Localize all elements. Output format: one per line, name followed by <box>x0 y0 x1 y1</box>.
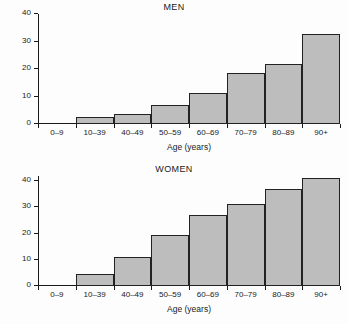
x-tick <box>340 286 341 290</box>
x-tick-label: 60–69 <box>189 290 227 299</box>
x-tick-label: 90+ <box>302 128 340 137</box>
bar <box>189 215 227 287</box>
x-tick-label: 80–89 <box>265 290 303 299</box>
bar-slot <box>38 14 76 124</box>
bar-slot <box>114 14 152 124</box>
x-tick-label: 70–79 <box>227 128 265 137</box>
y-tick-label: 0 <box>27 280 31 289</box>
y-tick-label: 10 <box>22 254 31 263</box>
y-tick: 30 <box>34 206 38 207</box>
plot-area-men: 010203040 <box>38 14 340 124</box>
x-tick <box>340 124 341 128</box>
bar <box>114 257 152 286</box>
bar-slot <box>302 176 340 286</box>
bar-slot <box>151 14 189 124</box>
x-tick-label: 0–9 <box>38 128 76 137</box>
bar-slot <box>189 14 227 124</box>
y-tick-label: 0 <box>27 118 31 127</box>
bar-slot <box>114 176 152 286</box>
y-tick: 10 <box>34 96 38 97</box>
bar-group-women <box>38 176 340 286</box>
chart-title-women: WOMEN <box>0 164 348 174</box>
bar <box>302 178 340 286</box>
bar-slot <box>76 176 114 286</box>
bar <box>227 204 265 286</box>
x-tick-label: 10–39 <box>76 128 114 137</box>
bar-slot <box>151 176 189 286</box>
x-axis-label-women: Age (years) <box>38 304 340 314</box>
x-tick-label: 50–59 <box>151 290 189 299</box>
x-tick-label: 10–39 <box>76 290 114 299</box>
chart-panel-men: MEN % who suffer 010203040 0–910–3940–49… <box>0 0 348 162</box>
y-tick: 20 <box>34 233 38 234</box>
y-tick-label: 10 <box>22 91 31 100</box>
bar <box>76 274 114 286</box>
bar-slot <box>38 176 76 286</box>
y-tick-label: 40 <box>22 175 31 184</box>
bar-slot <box>76 14 114 124</box>
bar-slot <box>265 14 303 124</box>
plot-area-women: 010203040 <box>38 176 340 286</box>
bar <box>76 117 114 124</box>
bar <box>265 189 303 286</box>
bar-slot <box>302 14 340 124</box>
x-tick-label: 70–79 <box>227 290 265 299</box>
bar <box>151 235 189 286</box>
bar-slot <box>227 176 265 286</box>
bar <box>151 105 189 124</box>
y-tick-label: 40 <box>22 8 31 17</box>
bar <box>227 73 265 124</box>
x-tick-label: 40–49 <box>114 128 152 137</box>
y-tick: 10 <box>34 259 38 260</box>
bar <box>302 34 340 124</box>
figure-root: MEN % who suffer 010203040 0–910–3940–49… <box>0 0 348 324</box>
x-tick-label: 40–49 <box>114 290 152 299</box>
y-tick-label: 30 <box>22 201 31 210</box>
y-tick-label: 30 <box>22 36 31 45</box>
bar <box>189 93 227 124</box>
x-tick-label: 50–59 <box>151 128 189 137</box>
chart-title-men: MEN <box>0 2 348 12</box>
x-tick-label: 90+ <box>302 290 340 299</box>
y-tick-label: 20 <box>22 228 31 237</box>
bar-slot <box>189 176 227 286</box>
bar-group-men <box>38 14 340 124</box>
y-tick: 30 <box>34 41 38 42</box>
x-tick-label: 80–89 <box>265 128 303 137</box>
y-tick: 20 <box>34 68 38 69</box>
x-tick-label: 60–69 <box>189 128 227 137</box>
y-tick: 40 <box>34 13 38 14</box>
chart-panel-women: WOMEN % who suffer 010203040 0–910–3940–… <box>0 162 348 324</box>
bar <box>265 64 303 124</box>
x-tick-label: 0–9 <box>38 290 76 299</box>
bar-slot <box>227 14 265 124</box>
y-tick: 40 <box>34 180 38 181</box>
y-tick-label: 20 <box>22 63 31 72</box>
x-tick-labels-men: 0–910–3940–4950–5960–6970–7980–8990+ <box>38 128 340 137</box>
x-tick-labels-women: 0–910–3940–4950–5960–6970–7980–8990+ <box>38 290 340 299</box>
bar <box>114 114 152 124</box>
x-axis-label-men: Age (years) <box>38 142 340 152</box>
bar-slot <box>265 176 303 286</box>
